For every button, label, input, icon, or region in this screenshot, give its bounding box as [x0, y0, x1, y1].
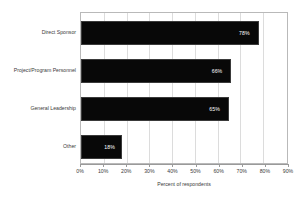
- x-axis-title: Percent of respondents: [80, 181, 288, 187]
- x-tick-label: 80%: [260, 168, 270, 174]
- bar-value-label: 78%: [239, 30, 250, 36]
- x-tick-label: 10%: [98, 168, 108, 174]
- x-tick-mark: [103, 164, 104, 167]
- bar-row: 18%: [81, 135, 287, 159]
- bar-general-leadership[interactable]: 65%: [81, 97, 229, 121]
- x-tick-mark: [242, 164, 243, 167]
- x-tick-mark: [80, 164, 81, 167]
- x-tick-label: 70%: [237, 168, 247, 174]
- bar-other[interactable]: 18%: [81, 135, 122, 159]
- bar-value-label: 66%: [212, 68, 223, 74]
- x-tick-mark: [149, 164, 150, 167]
- x-tick-mark: [265, 164, 266, 167]
- bar-value-label: 65%: [209, 106, 220, 112]
- x-tick-label: 60%: [213, 168, 223, 174]
- category-label-project-program-personnel: Project/Program Personnel: [0, 67, 76, 73]
- x-tick-mark: [288, 164, 289, 167]
- bar-chart: 78% 66% 65% 18% Direct Sponsor Project/P…: [0, 0, 301, 201]
- bar-value-label: 18%: [104, 144, 115, 150]
- x-tick-label: 20%: [121, 168, 131, 174]
- bar-row: 65%: [81, 97, 287, 121]
- x-tick-label: 50%: [190, 168, 200, 174]
- category-label-direct-sponsor: Direct Sponsor: [0, 29, 76, 35]
- x-tick-label: 30%: [144, 168, 154, 174]
- x-tick-mark: [196, 164, 197, 167]
- plot-area: 78% 66% 65% 18%: [80, 12, 288, 164]
- category-label-general-leadership: General Leadership: [0, 105, 76, 111]
- x-tick-mark: [172, 164, 173, 167]
- bar-row: 66%: [81, 59, 287, 83]
- x-axis-line: [80, 164, 288, 165]
- x-tick-label: 40%: [167, 168, 177, 174]
- bar-direct-sponsor[interactable]: 78%: [81, 21, 259, 45]
- bar-project-program-personnel[interactable]: 66%: [81, 59, 231, 83]
- x-tick-label: 0%: [76, 168, 84, 174]
- x-tick-mark: [219, 164, 220, 167]
- x-tick-mark: [126, 164, 127, 167]
- category-label-other: Other: [0, 143, 76, 149]
- x-tick-label: 90%: [283, 168, 293, 174]
- bar-row: 78%: [81, 21, 287, 45]
